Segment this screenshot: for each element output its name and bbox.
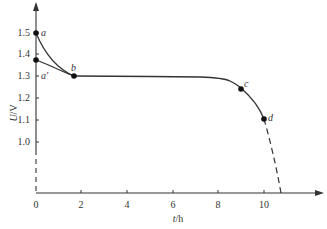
y-tick-label: 1.1 bbox=[18, 114, 31, 125]
curve-extrapolated bbox=[264, 119, 281, 193]
x-tick-label: 4 bbox=[125, 199, 130, 210]
x-axis-title: t/h bbox=[173, 213, 184, 224]
label-b: b bbox=[71, 62, 76, 73]
y-tick-label: 1.0 bbox=[18, 136, 31, 147]
x-tick-label: 8 bbox=[216, 199, 221, 210]
discharge-chart: 1.5 1.4 1.3 1.2 1.1 1.0 U/V 0 2 4 6 8 10… bbox=[0, 0, 327, 229]
x-tick-label: 2 bbox=[79, 199, 84, 210]
x-axis-arrow-icon bbox=[315, 190, 324, 196]
label-d: d bbox=[268, 112, 274, 123]
y-axis-title: U/V bbox=[8, 104, 19, 122]
y-tick-label: 1.5 bbox=[18, 27, 31, 38]
x-tick-label: 0 bbox=[34, 199, 39, 210]
point-b bbox=[71, 73, 77, 79]
label-c: c bbox=[244, 78, 249, 89]
y-tick-label: 1.2 bbox=[18, 92, 31, 103]
y-axis-arrow-icon bbox=[33, 2, 39, 11]
point-a bbox=[33, 30, 39, 36]
y-tick-label: 1.4 bbox=[18, 48, 31, 59]
x-tick-label: 6 bbox=[171, 199, 176, 210]
point-d bbox=[261, 116, 267, 122]
label-a-prime: a' bbox=[41, 70, 49, 81]
point-a-prime bbox=[33, 57, 39, 63]
label-a: a bbox=[41, 27, 46, 38]
y-tick-label: 1.3 bbox=[18, 70, 31, 81]
curve-plateau bbox=[74, 76, 264, 119]
x-tick-label: 10 bbox=[259, 199, 269, 210]
point-c bbox=[238, 86, 244, 92]
